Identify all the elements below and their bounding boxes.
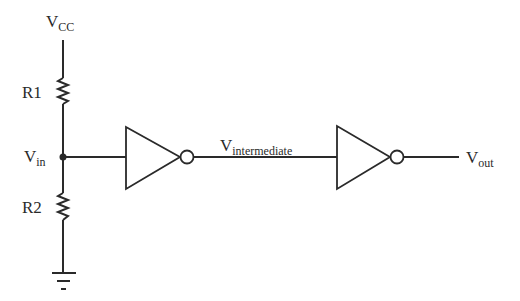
ground-icon [52,273,76,289]
vin-label-sub: in [36,155,45,169]
vcc-label-sub: CC [58,20,74,34]
vout-label-main: V [466,148,479,167]
inverter-2-bubble [391,151,404,164]
vcc-label: VCC [46,12,74,34]
svg-text:VCC: VCC [46,12,74,34]
inverter-1 [126,127,194,189]
inverter-1-triangle [126,127,180,189]
vcc-label-main: V [46,12,59,31]
inverter-1-bubble [181,151,194,164]
vintermediate-label: Vintermediate [220,136,292,158]
circuit-diagram: VCC R1 Vin R2 Vintermediate Vout [0,0,520,301]
r2-resistor [58,193,68,220]
vin-label: Vin [24,147,46,169]
vout-label: Vout [466,148,494,170]
vintermediate-label-sub: intermediate [232,144,292,158]
r2-label: R2 [22,198,42,217]
inverter-2-triangle [337,126,390,189]
inverter-2 [337,126,404,189]
vintermediate-label-main: V [220,136,233,155]
r1-label: R1 [22,83,42,102]
r1-resistor [58,78,68,104]
vout-label-sub: out [478,156,494,170]
vin-label-main: V [24,147,37,166]
